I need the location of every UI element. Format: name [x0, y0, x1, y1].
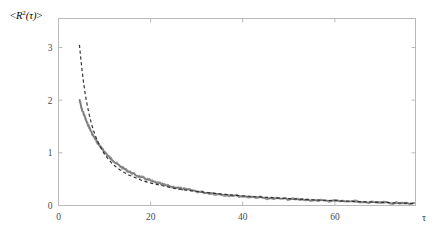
series-fit-curve: [79, 45, 414, 204]
x-tick-label: 20: [146, 212, 156, 222]
y-axis-ticks: [59, 47, 416, 205]
y-tick-label: 3: [48, 43, 53, 53]
x-axis-ticks: [59, 19, 335, 206]
y-tick-label: 1: [48, 148, 53, 158]
y-axis-label: <R2(τ)>: [10, 5, 43, 23]
chart-canvas: 0204060 0123 τ: [0, 0, 438, 233]
y-axis-label-text: <R2(τ)>: [10, 10, 43, 21]
x-axis-label: τ: [422, 212, 426, 223]
y-tick-label: 2: [48, 96, 53, 106]
figure-container: 0204060 0123 τ <R2(τ)>: [0, 0, 438, 233]
x-tick-label: 0: [56, 212, 61, 222]
x-axis-tick-labels: 0204060: [56, 212, 340, 222]
y-axis-tick-labels: 0123: [48, 43, 53, 211]
plot-frame: [59, 19, 416, 206]
series-measured-data-core: [80, 100, 414, 204]
y-tick-label: 0: [48, 201, 53, 211]
series-measured-data: [80, 100, 414, 204]
x-tick-label: 60: [330, 212, 340, 222]
x-tick-label: 40: [238, 212, 248, 222]
